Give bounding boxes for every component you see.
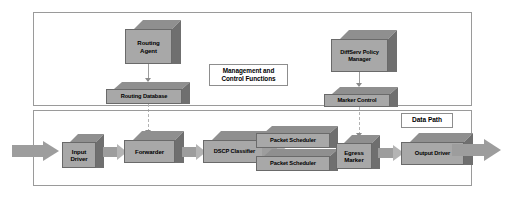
routing-database-label: Routing Database	[121, 93, 168, 100]
arrow-egress-to-output-shaft	[378, 148, 394, 158]
data-path-caption-label: Data Path	[412, 116, 442, 124]
arrow-input-driver-to-forwarder-shaft	[103, 147, 118, 157]
arrow-ingress-flow	[12, 141, 60, 161]
routing-agent-label-line2: Agent	[140, 47, 157, 54]
input-driver-label-line1: Input	[72, 148, 86, 155]
egress-marker-label-line2: Marker	[344, 156, 363, 163]
node-forwarder[interactable]: Forwarder	[124, 131, 184, 163]
packet-scheduler-2-label: Packet Scheduler	[270, 160, 316, 167]
arrow-ingress-head	[43, 141, 59, 161]
routing-database-top-face	[114, 82, 190, 89]
node-marker-control[interactable]: Marker Control	[324, 87, 398, 107]
arrow-egress-flow	[452, 139, 502, 161]
forwarder-front-face: Forwarder	[124, 140, 175, 163]
node-diffserv-policy-manager[interactable]: DiffServ Policy Manager	[331, 30, 397, 72]
diffserv-policy-manager-label-line2: Manager	[348, 56, 371, 62]
marker-control-label: Marker Control	[337, 97, 376, 104]
routing-database-front-face: Routing Database	[106, 89, 182, 104]
marker-control-front-face: Marker Control	[324, 94, 390, 107]
node-packet-scheduler-2[interactable]: Packet Scheduler	[256, 149, 338, 171]
packet-scheduler-1-label: Packet Scheduler	[270, 137, 316, 144]
packet-scheduler-2-front-face: Packet Scheduler	[256, 156, 330, 171]
diagram-canvas: Routing Agent Routing Database Managemen…	[0, 0, 508, 198]
data-path-caption: Data Path	[401, 113, 453, 128]
routing-agent-label-line1: Routing	[137, 39, 159, 46]
packet-scheduler-1-top-face	[264, 126, 338, 133]
arrow-ingress-shaft	[12, 145, 45, 157]
dscp-classifier-label: DSCP Classifier	[214, 148, 255, 155]
arrow-egress-head	[484, 139, 501, 161]
diffserv-policy-manager-top-face	[340, 30, 397, 39]
node-input-driver[interactable]: Input Driver	[62, 134, 104, 168]
egress-marker-front-face: Egress Marker	[336, 143, 372, 169]
management-control-caption: Management and Control Functions	[209, 64, 288, 86]
diffserv-policy-manager-label-line1: DiffServ Policy	[340, 49, 379, 55]
packet-scheduler-2-top-face	[264, 149, 338, 156]
input-driver-label-line2: Driver	[70, 155, 87, 162]
egress-marker-label-line1: Egress	[344, 149, 364, 156]
arrow-egress-shaft	[452, 144, 486, 156]
management-caption-line2: Control Functions	[221, 75, 275, 82]
management-caption-line1: Management and	[223, 67, 275, 74]
node-packet-scheduler-1[interactable]: Packet Scheduler	[256, 126, 338, 148]
node-egress-marker[interactable]: Egress Marker	[336, 135, 380, 169]
node-routing-database[interactable]: Routing Database	[106, 82, 190, 104]
management-control-panel	[33, 12, 472, 106]
marker-control-top-face	[332, 87, 398, 94]
forwarder-label: Forwarder	[135, 148, 164, 155]
diffserv-policy-manager-front-face: DiffServ Policy Manager	[331, 39, 388, 72]
node-routing-agent[interactable]: Routing Agent	[125, 20, 181, 64]
output-driver-label: Output Driver	[415, 150, 450, 157]
routing-agent-front-face: Routing Agent	[125, 29, 172, 64]
input-driver-front-face: Input Driver	[62, 142, 96, 168]
packet-scheduler-1-front-face: Packet Scheduler	[256, 133, 330, 148]
arrow-forwarder-to-dscp-shaft	[182, 147, 197, 157]
